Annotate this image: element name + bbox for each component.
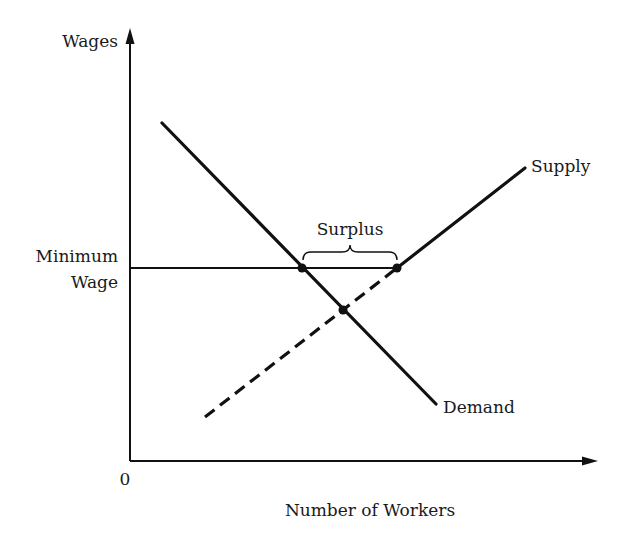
minimum-wage-label-line2: Wage [71, 272, 118, 292]
x-axis-arrow-icon [582, 457, 598, 466]
supply-curve-solid [397, 168, 525, 268]
supply-curve-dashed [205, 268, 397, 417]
y-axis-arrow-icon [126, 28, 135, 44]
demand-min-wage-point [298, 264, 307, 273]
y-axis [126, 28, 135, 461]
minimum-wage-label-line1: Minimum [36, 246, 118, 266]
origin-label: 0 [120, 469, 131, 489]
x-axis-label: Number of Workers [285, 500, 455, 520]
supply-min-wage-point [393, 264, 402, 273]
demand-label: Demand [443, 397, 515, 417]
x-axis [130, 457, 598, 466]
labor-market-diagram: Wages Minimum Wage Surplus Supply Demand… [0, 0, 635, 547]
surplus-label: Surplus [317, 219, 384, 239]
y-axis-label: Wages [62, 31, 118, 51]
surplus-brace [303, 245, 397, 260]
demand-curve [162, 123, 436, 404]
equilibrium-point [339, 306, 348, 315]
supply-label: Supply [531, 156, 591, 176]
